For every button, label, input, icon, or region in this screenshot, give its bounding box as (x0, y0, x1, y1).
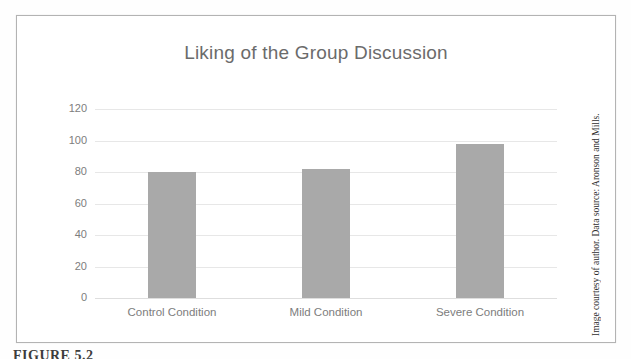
gridline-y0 (95, 298, 557, 299)
y-axis-tick-label: 20 (51, 260, 87, 272)
figure-caption: FIGURE 5.2 (13, 348, 93, 359)
attribution-text: Image courtesy of author. Data source: A… (589, 104, 605, 336)
bar-mild-condition (302, 169, 350, 298)
x-axis-category-label: Control Condition (95, 306, 249, 318)
x-axis-category-label: Severe Condition (403, 306, 557, 318)
y-axis-tick-label: 60 (51, 197, 87, 209)
y-axis-tick-label: 120 (51, 102, 87, 114)
x-axis-category-label: Mild Condition (249, 306, 403, 318)
y-axis-tick-label: 100 (51, 134, 87, 146)
scanned-page: Liking of the Group Discussion 020406080… (0, 0, 631, 359)
chart-title: Liking of the Group Discussion (17, 42, 615, 64)
bar-severe-condition (456, 144, 504, 298)
gridline-y120 (95, 109, 557, 110)
plot-area: 020406080100120Control ConditionMild Con… (95, 109, 557, 298)
bar-control-condition (148, 172, 196, 298)
y-axis-tick-label: 80 (51, 165, 87, 177)
y-axis-tick-label: 40 (51, 228, 87, 240)
chart-frame: Liking of the Group Discussion 020406080… (16, 15, 616, 343)
y-axis-tick-label: 0 (51, 291, 87, 303)
gridline-y100 (95, 141, 557, 142)
